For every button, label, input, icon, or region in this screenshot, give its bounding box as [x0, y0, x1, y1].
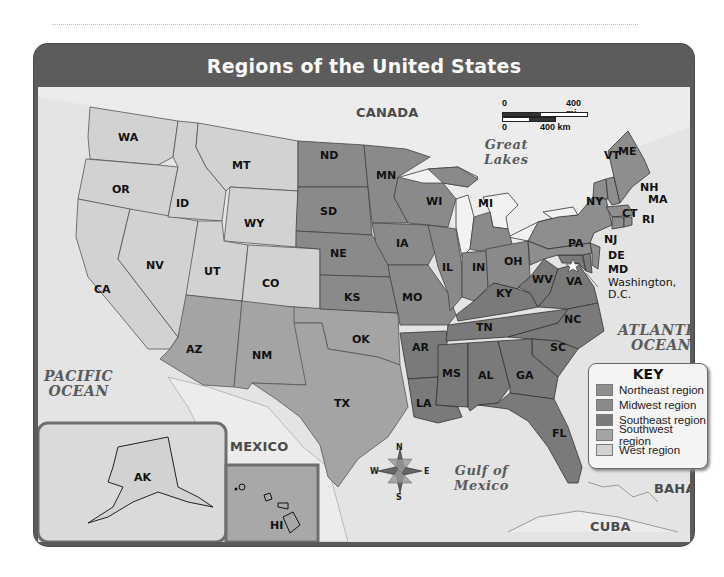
state-label-ia: IA: [396, 237, 409, 250]
label-washington-dc: Washington, D.C.: [608, 277, 676, 301]
state-label-az: AZ: [186, 343, 203, 356]
state-label-sd: SD: [320, 205, 337, 218]
compass-w: W: [370, 467, 379, 476]
state-label-il: IL: [442, 261, 453, 274]
state-label-oh: OH: [504, 255, 523, 268]
state-label-md: MD: [608, 263, 628, 276]
great-lakes-line1: Great: [484, 137, 529, 152]
state-label-id: ID: [176, 197, 189, 210]
pacific-line1: PACIFIC: [44, 369, 113, 384]
state-label-ut: UT: [204, 265, 220, 278]
state-label-mt: MT: [232, 159, 250, 172]
top-dotted-rule: [52, 24, 638, 25]
label-bahamas: BAHAMAS: [654, 481, 690, 496]
state-label-mn: MN: [376, 169, 396, 182]
state-label-me: ME: [618, 145, 636, 158]
legend-item-midwest: Midwest region: [596, 397, 707, 412]
great-lakes-line2: Lakes: [484, 152, 529, 167]
state-label-ma: MA: [648, 193, 667, 206]
state-label-va: VA: [566, 275, 582, 288]
gulf-line2: Mexico: [454, 478, 509, 493]
gulf-line1: Gulf of: [454, 463, 509, 478]
legend-swatch-southwest: [596, 429, 613, 441]
scale-mi-zero: 0: [502, 98, 507, 108]
state-label-fl: FL: [552, 427, 567, 440]
legend-label-midwest: Midwest region: [619, 399, 696, 411]
state-label-ms: MS: [442, 367, 461, 380]
state-label-co: CO: [262, 277, 279, 290]
state-label-nm: NM: [252, 349, 272, 362]
legend-item-northeast: Northeast region: [596, 382, 707, 397]
atlantic-line1: ATLANTIC: [618, 323, 690, 338]
state-label-ok: OK: [352, 333, 370, 346]
state-label-wv: WV: [532, 273, 553, 286]
legend-title: KEY: [589, 366, 707, 382]
state-label-ky: KY: [496, 287, 513, 300]
state-label-wi: WI: [426, 195, 442, 208]
state-label-nj: NJ: [604, 233, 617, 246]
state-label-vt: VT: [604, 149, 620, 162]
legend-item-southwest: Southwest region: [596, 427, 707, 442]
state-label-ne: NE: [330, 247, 347, 260]
compass-n: N: [396, 443, 403, 452]
pacific-line2: OCEAN: [44, 384, 113, 399]
state-label-ny: NY: [586, 195, 603, 208]
compass-s: S: [396, 493, 402, 502]
state-label-tx: TX: [334, 397, 350, 410]
state-label-ga: GA: [516, 369, 534, 382]
state-label-in: IN: [472, 261, 485, 274]
map-frame: Regions of the United States: [34, 44, 694, 546]
label-mexico: MEXICO: [230, 439, 288, 454]
map-canvas: CANADA MEXICO BAHAMAS CUBA PACIFIC OCEAN…: [38, 87, 690, 542]
legend-swatch-west: [596, 444, 613, 456]
legend-swatch-northeast: [596, 384, 613, 396]
state-label-nv: NV: [146, 259, 164, 272]
legend-swatch-midwest: [596, 399, 613, 411]
state-label-ks: KS: [344, 291, 360, 304]
state-label-ri: RI: [642, 213, 655, 226]
state-label-wa: WA: [118, 131, 138, 144]
state-label-ct: CT: [622, 207, 638, 220]
state-label-wy: WY: [244, 217, 264, 230]
state-label-mo: MO: [402, 291, 422, 304]
state-label-ar: AR: [412, 341, 429, 354]
state-label-nd: ND: [320, 149, 338, 162]
label-pacific-ocean: PACIFIC OCEAN: [44, 369, 113, 399]
state-label-de: DE: [608, 249, 625, 262]
state-label-sc: SC: [550, 341, 566, 354]
map-legend: KEY Northeast region Midwest region Sout…: [588, 363, 708, 469]
map-header: Regions of the United States: [34, 44, 694, 87]
legend-label-northeast: Northeast region: [619, 384, 704, 396]
map-title: Regions of the United States: [207, 55, 521, 77]
state-label-al: AL: [478, 369, 494, 382]
state-label-hi: HI: [270, 519, 283, 532]
state-label-tn: TN: [476, 321, 493, 334]
atlantic-line2: OCEAN: [618, 338, 690, 353]
state-label-pa: PA: [568, 237, 584, 250]
state-label-mi: MI: [478, 197, 493, 210]
compass-e: E: [424, 467, 429, 476]
scale-bar: 0 400 mi 0 400 km: [502, 98, 592, 138]
state-label-or: OR: [112, 183, 130, 196]
label-atlantic-ocean: ATLANTIC OCEAN: [618, 323, 690, 353]
state-label-nc: NC: [564, 313, 581, 326]
label-canada: CANADA: [356, 105, 419, 120]
state-label-la: LA: [416, 397, 432, 410]
capital-line2: D.C.: [608, 289, 676, 301]
label-gulf-of-mexico: Gulf of Mexico: [454, 463, 509, 493]
scale-km-label: 400 km: [540, 122, 571, 132]
legend-label-west: West region: [619, 444, 680, 456]
state-label-ak: AK: [134, 471, 151, 484]
legend-swatch-southeast: [596, 414, 613, 426]
label-great-lakes: Great Lakes: [484, 137, 529, 167]
scale-km-zero: 0: [502, 122, 507, 132]
label-cuba: CUBA: [590, 519, 631, 534]
state-label-ca: CA: [94, 283, 111, 296]
